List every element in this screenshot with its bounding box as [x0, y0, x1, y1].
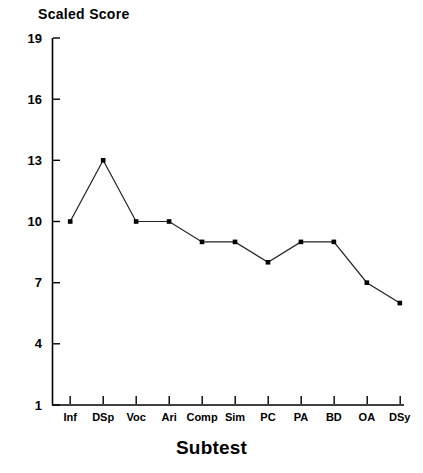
y-tick-label-13: 13	[14, 154, 42, 167]
x-tick-label-oa: OA	[359, 411, 376, 423]
y-axis-ticks	[53, 38, 60, 405]
data-point-dsy	[398, 301, 403, 306]
data-point-bd	[332, 240, 337, 245]
y-tick-label-19: 19	[14, 32, 42, 45]
x-tick-label-dsy: DSy	[389, 411, 410, 423]
y-tick-label-10: 10	[14, 215, 42, 228]
x-axis-title: Subtest	[0, 437, 423, 459]
axis-spines	[52, 38, 404, 406]
data-point-voc	[134, 219, 139, 224]
data-series-markers	[68, 158, 402, 305]
data-point-comp	[200, 240, 205, 245]
y-tick-label-1: 1	[14, 399, 42, 412]
data-series-line	[70, 160, 400, 303]
data-point-oa	[365, 280, 370, 285]
x-tick-label-bd: BD	[326, 411, 342, 423]
data-point-pa	[299, 240, 304, 245]
data-point-inf	[68, 219, 73, 224]
data-point-ari	[167, 219, 172, 224]
x-axis-ticks	[70, 396, 400, 404]
x-tick-label-dsp: DSp	[92, 411, 114, 423]
x-tick-label-pc: PC	[260, 411, 275, 423]
y-tick-label-16: 16	[14, 93, 42, 106]
plot-area	[0, 0, 423, 473]
data-point-dsp	[101, 158, 106, 163]
data-point-sim	[233, 240, 238, 245]
x-tick-label-sim: Sim	[225, 411, 245, 423]
x-tick-label-ari: Ari	[161, 411, 176, 423]
x-tick-label-pa: PA	[294, 411, 308, 423]
y-tick-label-4: 4	[14, 337, 42, 350]
x-tick-label-comp: Comp	[186, 411, 217, 423]
x-tick-label-inf: Inf	[63, 411, 76, 423]
scaled-score-line-chart: Scaled Score	[0, 0, 423, 473]
y-tick-label-7: 7	[14, 276, 42, 289]
data-point-pc	[266, 260, 271, 265]
x-tick-label-voc: Voc	[126, 411, 145, 423]
